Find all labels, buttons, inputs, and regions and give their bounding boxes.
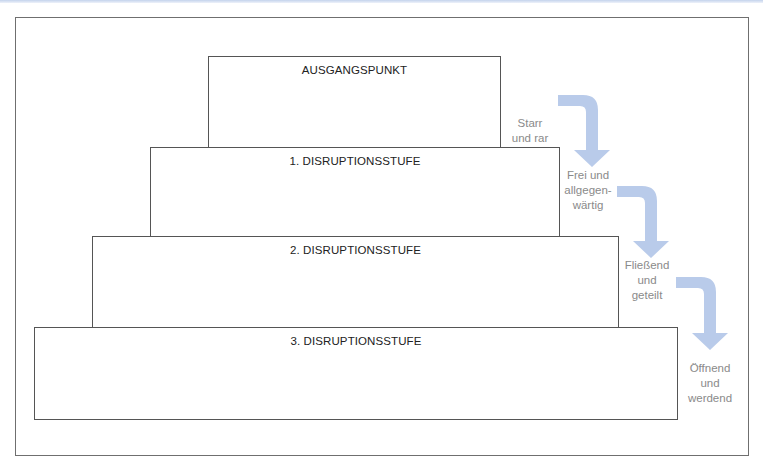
- curved-arrow-icon: [558, 95, 610, 167]
- step-text-2: Fließend und geteilt: [618, 258, 676, 303]
- curved-arrow-icon: [617, 186, 669, 258]
- transition-arrows: [0, 0, 763, 469]
- step-text-3: Öffnend und werdend: [678, 361, 742, 406]
- curved-arrow-icon: [676, 277, 728, 350]
- step-text-0: Starr und rar: [502, 116, 558, 146]
- step-text-1: Frei und allgegen- wärtig: [558, 168, 618, 213]
